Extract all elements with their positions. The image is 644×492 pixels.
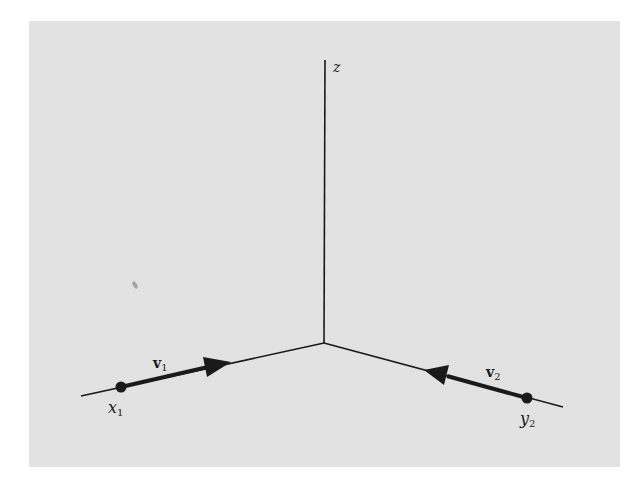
z-axis — [324, 60, 325, 343]
z-axis-label: z — [333, 60, 340, 74]
vector-v2-arrowhead — [424, 365, 449, 385]
vector-v2-label: v2 — [486, 365, 501, 379]
smudge-mark — [131, 281, 138, 290]
vector-v2-subscript: 2 — [494, 371, 500, 382]
axes-diagram — [0, 0, 644, 492]
point-y2-dot — [522, 393, 533, 404]
vector-v1-label: v1 — [153, 356, 168, 370]
point-x1-subscript: 1 — [117, 407, 123, 418]
point-y2-label: y2 — [520, 411, 535, 427]
point-x1-letter: x — [108, 398, 117, 417]
vector-v1-arrowhead — [203, 357, 231, 377]
point-x1-dot — [116, 382, 127, 393]
vector-v2-letter: v — [486, 364, 494, 380]
point-y2-letter: y — [520, 409, 529, 428]
vector-v1-letter: v — [153, 355, 161, 371]
point-x1-label: x1 — [108, 400, 123, 416]
point-y2-subscript: 2 — [529, 418, 535, 429]
vector-v1-subscript: 1 — [161, 362, 167, 373]
